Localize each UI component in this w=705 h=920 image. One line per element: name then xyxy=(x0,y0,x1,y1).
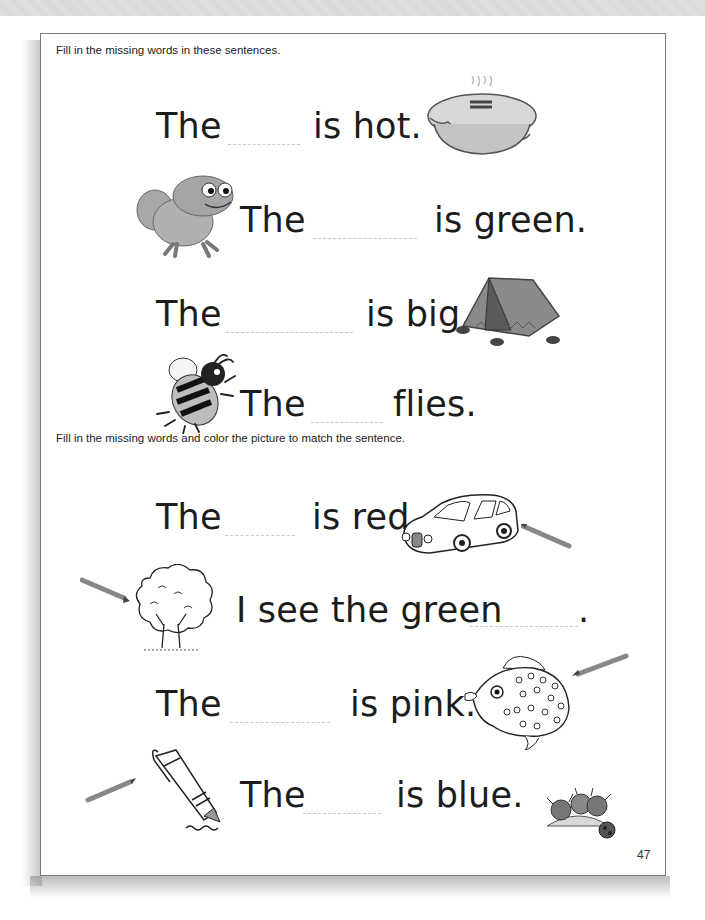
sentence-7-end: is pink. xyxy=(350,684,476,724)
sentence-2-start: The xyxy=(240,200,306,240)
page-number: 47 xyxy=(637,848,650,862)
blank-3[interactable] xyxy=(226,332,353,333)
tent-icon xyxy=(455,270,561,346)
car-icon xyxy=(400,493,524,559)
pen-icon xyxy=(130,744,224,834)
pencil-icon xyxy=(572,652,630,678)
pencil-icon xyxy=(521,522,573,550)
sentence-4-start: The xyxy=(240,384,306,424)
sentence-7-start: The xyxy=(156,684,222,724)
top-band xyxy=(0,0,705,16)
bee-icon xyxy=(155,350,239,434)
pencil-icon xyxy=(80,576,132,604)
sentence-3-start: The xyxy=(156,294,222,334)
blank-5[interactable] xyxy=(225,535,295,536)
sentence-5-start: The xyxy=(156,497,222,537)
sentence-1-end: is hot. xyxy=(313,106,422,146)
instruction-1: Fill in the missing words in these sente… xyxy=(56,44,280,56)
page-shadow xyxy=(22,40,42,886)
tree-icon xyxy=(130,564,214,654)
bugs-icon xyxy=(543,786,619,840)
frog-icon xyxy=(133,168,237,258)
sentence-1-start: The xyxy=(156,106,222,146)
sentence-6-start: I see the green xyxy=(236,590,503,630)
pie-icon xyxy=(424,76,540,164)
sentence-8-start: The xyxy=(240,775,306,815)
blank-1[interactable] xyxy=(228,144,300,145)
fish-icon xyxy=(463,650,579,750)
sentence-2-end: is green. xyxy=(434,200,587,240)
page-shadow xyxy=(30,876,670,898)
blank-2[interactable] xyxy=(313,238,417,239)
sentence-4-end: flies. xyxy=(393,384,477,424)
blank-8[interactable] xyxy=(303,813,381,814)
instruction-2: Fill in the missing words and color the … xyxy=(56,432,405,444)
sentence-6-end: . xyxy=(578,590,589,630)
blank-7[interactable] xyxy=(230,722,330,723)
sentence-8-end: is blue. xyxy=(396,775,523,815)
blank-4[interactable] xyxy=(311,422,383,423)
blank-6[interactable] xyxy=(470,626,578,627)
